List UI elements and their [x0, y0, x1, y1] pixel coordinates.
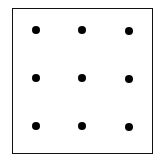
grid-dot	[125, 27, 133, 35]
grid-dot	[32, 74, 40, 82]
grid-dot	[78, 26, 86, 34]
grid-dot	[125, 123, 133, 131]
grid-dot	[125, 75, 133, 83]
grid-dot	[78, 74, 86, 82]
grid-dot	[32, 26, 40, 34]
grid-dot	[32, 122, 40, 130]
grid-dot	[78, 122, 86, 130]
